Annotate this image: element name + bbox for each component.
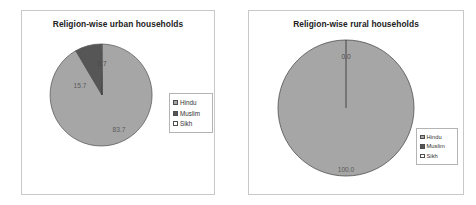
legend-label-sikh: Sikh xyxy=(427,153,438,160)
legend-item-hindu[interactable]: Hindu xyxy=(173,98,208,108)
legend-label-hindu: Hindu xyxy=(180,99,196,106)
screenshot-canvas: Religion-wise urban households 0.7 15.7 … xyxy=(0,0,476,205)
pie-plot-rural: 0.0 100.0 xyxy=(275,37,417,179)
pie-plot-urban: 0.7 15.7 83.7 xyxy=(48,41,156,149)
legend-label-muslim: Muslim xyxy=(180,110,200,117)
legend-label-hindu: Hindu xyxy=(427,134,442,141)
legend-item-sikh[interactable]: Sikh xyxy=(420,152,453,161)
chart-panel-rural: Religion-wise rural households 0.0 100.0… xyxy=(248,10,464,195)
data-label-muslim-urban: 15.7 xyxy=(68,82,92,89)
legend-label-muslim: Muslim xyxy=(427,143,445,150)
legend-label-sikh: Sikh xyxy=(180,120,192,127)
legend-swatch-sikh xyxy=(173,121,178,126)
legend-item-muslim[interactable]: Muslim xyxy=(173,108,208,118)
legend-item-hindu[interactable]: Hindu xyxy=(420,133,453,142)
chart-panel-urban: Religion-wise urban households 0.7 15.7 … xyxy=(21,10,215,195)
legend-item-muslim[interactable]: Muslim xyxy=(420,142,453,151)
data-label-hindu-rural: 100.0 xyxy=(330,166,362,173)
legend-swatch-sikh xyxy=(420,154,425,159)
chart-title-urban: Religion-wise urban households xyxy=(22,19,214,29)
data-label-sikh-rural: 0.0 xyxy=(333,53,359,60)
legend-item-sikh[interactable]: Sikh xyxy=(173,119,208,129)
legend-swatch-muslim xyxy=(420,144,425,149)
data-label-hindu-urban: 83.7 xyxy=(106,126,132,133)
chart-legend-rural: Hindu Muslim Sikh xyxy=(416,128,458,165)
chart-title-rural: Religion-wise rural households xyxy=(249,19,463,29)
legend-swatch-muslim xyxy=(173,111,178,116)
legend-swatch-hindu xyxy=(173,100,178,105)
legend-swatch-hindu xyxy=(420,135,425,140)
data-label-sikh-urban: 0.7 xyxy=(90,60,114,67)
chart-legend-urban: Hindu Muslim Sikh xyxy=(169,93,213,133)
